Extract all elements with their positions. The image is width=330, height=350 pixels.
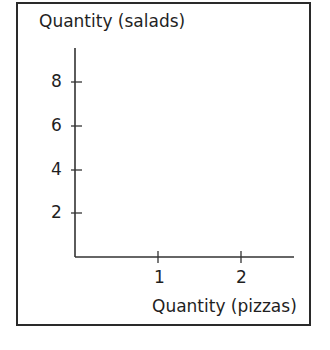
x-tick-label-2: 2 [236, 269, 247, 286]
y-tick-label-4: 4 [51, 161, 62, 178]
y-tick-label-6: 6 [51, 117, 62, 134]
x-axis-label: Quantity (pizzas) [152, 296, 297, 316]
y-tick-label-2: 2 [51, 204, 62, 221]
x-tick-label-1: 1 [154, 269, 165, 286]
y-tick-label-8: 8 [51, 73, 62, 90]
